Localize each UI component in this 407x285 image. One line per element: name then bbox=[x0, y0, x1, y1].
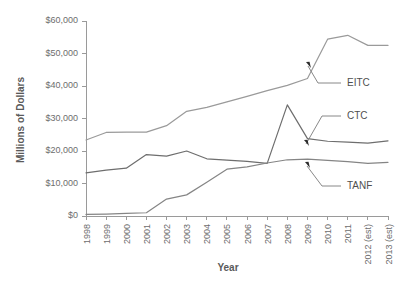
x-tick-label: 2007 bbox=[263, 224, 273, 244]
series-label-tanf: TANF bbox=[347, 180, 372, 191]
x-tick-label: 2001 bbox=[142, 224, 152, 244]
series-label-eitc: EITC bbox=[347, 77, 370, 88]
series-label-ctc: CTC bbox=[347, 110, 368, 121]
x-tick-label: 1999 bbox=[102, 224, 112, 244]
y-tick-label: $50,000 bbox=[45, 48, 78, 58]
x-tick-label: 2004 bbox=[202, 224, 212, 244]
y-axis-title: Millions of Dollars bbox=[15, 77, 26, 164]
x-tick-label: 2011 bbox=[343, 224, 353, 243]
series-line-tanf bbox=[86, 159, 388, 214]
series-line-ctc bbox=[86, 105, 388, 173]
series-annotations: EITCCTCTANF bbox=[304, 62, 372, 191]
x-tick-label: 2006 bbox=[243, 224, 253, 244]
x-tick-label: 2003 bbox=[182, 224, 192, 244]
x-tick-label: 2012 (est) bbox=[363, 224, 373, 265]
x-tick-label: 2013 (est) bbox=[384, 224, 394, 265]
x-axis-ticks: 1998199920002001200220032004200520062007… bbox=[82, 216, 394, 265]
chart-container: $0$10,000$20,000$30,000$40,000$50,000$60… bbox=[0, 0, 407, 285]
x-tick-label: 2010 bbox=[323, 224, 333, 244]
y-tick-label: $10,000 bbox=[45, 178, 78, 188]
x-tick-label: 1998 bbox=[82, 224, 92, 244]
x-tick-label: 2009 bbox=[303, 224, 313, 244]
series-line-eitc bbox=[86, 35, 388, 140]
x-tick-label: 2008 bbox=[283, 224, 293, 244]
series-lines bbox=[86, 35, 388, 214]
x-axis-title: Year bbox=[217, 262, 238, 273]
line-chart-svg: $0$10,000$20,000$30,000$40,000$50,000$60… bbox=[0, 0, 407, 285]
y-tick-label: $20,000 bbox=[45, 145, 78, 155]
y-axis-ticks: $0$10,000$20,000$30,000$40,000$50,000$60… bbox=[45, 15, 86, 220]
x-tick-label: 2005 bbox=[222, 224, 232, 244]
x-tick-label: 2002 bbox=[162, 224, 172, 244]
x-tick-label: 2000 bbox=[122, 224, 132, 244]
y-tick-label: $60,000 bbox=[45, 15, 78, 25]
y-tick-label: $0 bbox=[68, 210, 78, 220]
y-tick-label: $30,000 bbox=[45, 113, 78, 123]
y-tick-label: $40,000 bbox=[45, 80, 78, 90]
